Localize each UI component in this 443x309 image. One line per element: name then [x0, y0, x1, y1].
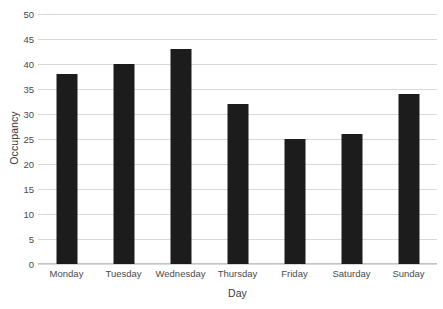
bar-slot: [95, 14, 152, 264]
y-tick-label: 35: [14, 84, 34, 95]
y-tick-label: 0: [14, 259, 34, 270]
y-tick-label: 30: [14, 109, 34, 120]
y-tick-label: 40: [14, 59, 34, 70]
bar: [227, 104, 248, 264]
x-tick-label: Saturday: [323, 268, 380, 279]
bar-slot: [38, 14, 95, 264]
y-tick-label: 45: [14, 34, 34, 45]
y-tick-label: 5: [14, 234, 34, 245]
y-tick-label: 50: [14, 9, 34, 20]
bar-slot: [323, 14, 380, 264]
x-tick-label: Thursday: [209, 268, 266, 279]
bar-chart-figure: Occupancy 05101520253035404550 MondayTue…: [0, 0, 443, 309]
gridline: [38, 264, 437, 265]
bar-slot: [152, 14, 209, 264]
x-axis-title: Day: [38, 287, 437, 299]
x-tick-label: Tuesday: [95, 268, 152, 279]
x-tick-label: Sunday: [380, 268, 437, 279]
bar: [113, 64, 134, 264]
bars-series: [38, 14, 437, 264]
y-tick-label: 10: [14, 209, 34, 220]
bar-slot: [209, 14, 266, 264]
plot-area: [38, 14, 437, 264]
y-tick-label: 25: [14, 134, 34, 145]
bar: [284, 139, 305, 264]
y-axis-tick-labels: 05101520253035404550: [14, 14, 34, 264]
y-tick-label: 15: [14, 184, 34, 195]
x-tick-label: Monday: [38, 268, 95, 279]
bar: [398, 94, 419, 264]
bar-slot: [380, 14, 437, 264]
x-tick-label: Friday: [266, 268, 323, 279]
bar: [341, 134, 362, 264]
x-tick-label: Wednesday: [152, 268, 209, 279]
y-tick-label: 20: [14, 159, 34, 170]
bar: [56, 74, 77, 264]
x-axis-tick-labels: MondayTuesdayWednesdayThursdayFridaySatu…: [38, 268, 437, 284]
bar-slot: [266, 14, 323, 264]
bar: [170, 49, 191, 264]
